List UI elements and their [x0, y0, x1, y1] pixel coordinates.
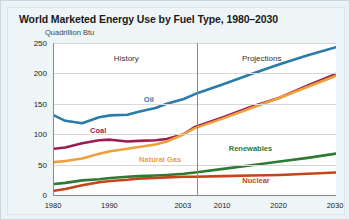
series-label-coal: Coal — [90, 125, 106, 134]
x-axis-tick-label: 2030 — [327, 201, 344, 210]
series-label-renewables: Renewables — [229, 144, 272, 153]
y-axis-tick-label: 200 — [34, 69, 47, 78]
series-line-coal — [54, 74, 336, 149]
history-projections-divider — [197, 43, 198, 195]
plot-area — [53, 43, 336, 196]
chart-figure: World Marketed Energy Use by Fuel Type, … — [0, 0, 350, 220]
series-line-oil — [54, 47, 336, 123]
gridline — [54, 43, 336, 44]
series-line-nuclear — [54, 173, 336, 191]
y-axis-tick-label: 0 — [43, 191, 47, 200]
x-axis-tick-label: 1990 — [101, 201, 118, 210]
page-title: World Marketed Energy Use by Fuel Type, … — [19, 13, 278, 25]
series-lines — [54, 43, 336, 195]
region-label-history: History — [114, 54, 139, 63]
y-axis-tick-label: 50 — [38, 160, 47, 169]
x-axis-tick-label: 2010 — [214, 201, 231, 210]
gridline — [54, 165, 336, 166]
y-axis-tick-label: 150 — [34, 99, 47, 108]
gridline — [54, 104, 336, 105]
gridline — [54, 73, 336, 74]
region-label-projections: Projections — [242, 54, 282, 63]
series-label-natural-gas: Natural Gas — [139, 154, 181, 163]
y-axis-tick-label: 250 — [34, 39, 47, 48]
y-axis-unit-label: Quadrillion Btu — [45, 28, 94, 37]
series-label-nuclear: Nuclear — [242, 176, 270, 185]
x-axis-tick-label: 1980 — [45, 201, 62, 210]
series-line-renewables — [54, 154, 336, 184]
y-axis-tick-label: 100 — [34, 130, 47, 139]
x-axis-tick-label: 2020 — [270, 201, 287, 210]
x-axis-tick-label: 2003 — [174, 201, 191, 210]
series-label-oil: Oil — [144, 94, 154, 103]
